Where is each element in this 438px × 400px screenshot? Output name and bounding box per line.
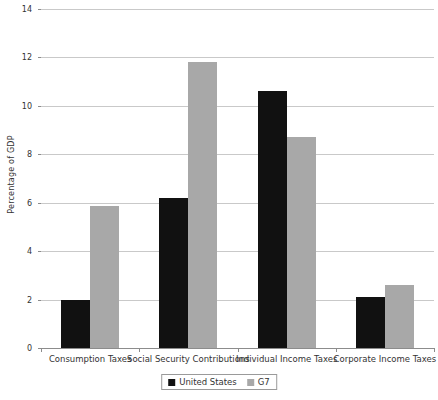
bar-united-states-corporate-income-taxes	[356, 297, 385, 348]
bars-layer	[41, 9, 434, 348]
y-tick-mark-4	[38, 251, 41, 252]
bar-g7-corporate-income-taxes	[385, 285, 414, 348]
legend-label-g7: G7	[258, 377, 270, 387]
y-tick-label-8: 8	[10, 150, 32, 159]
x-axis-label-consumption-taxes: Consumption Taxes	[49, 354, 131, 364]
bar-chart: Percentage of GDP 02468101214 Consumptio…	[0, 0, 438, 400]
bar-united-states-individual-income-taxes	[258, 91, 287, 348]
bar-g7-social-security-contributions	[188, 62, 217, 348]
y-tick-label-10: 10	[10, 101, 32, 110]
y-tick-label-2: 2	[10, 295, 32, 304]
x-axis-label-corporate-income-taxes: Corporate Income Taxes	[334, 354, 437, 364]
x-axis-label-social-security-contributions: Social Security Contributions	[127, 354, 250, 364]
y-tick-mark-10	[38, 106, 41, 107]
y-tick-label-14: 14	[10, 5, 32, 14]
black-square-swatch-icon	[168, 379, 175, 386]
y-tick-label-12: 12	[10, 53, 32, 62]
y-tick-mark-2	[38, 300, 41, 301]
legend-label-united-states: United States	[179, 377, 237, 387]
y-tick-mark-14	[38, 9, 41, 10]
legend-item-g7: G7	[247, 377, 270, 387]
bar-g7-individual-income-taxes	[287, 137, 316, 348]
y-tick-mark-8	[38, 154, 41, 155]
x-tick-2	[238, 348, 239, 352]
x-tick-edge-right	[434, 348, 435, 352]
y-tick-mark-6	[38, 203, 41, 204]
y-tick-label-4: 4	[10, 247, 32, 256]
bar-united-states-social-security-contributions	[159, 198, 188, 348]
x-tick-1	[139, 348, 140, 352]
legend-item-united-states: United States	[168, 377, 237, 387]
y-tick-label-6: 6	[10, 198, 32, 207]
chart-legend: United States G7	[161, 374, 277, 390]
x-tick-3	[336, 348, 337, 352]
plot-area	[41, 9, 434, 348]
y-tick-mark-12	[38, 57, 41, 58]
bar-united-states-consumption-taxes	[61, 300, 90, 348]
x-tick-edge-left	[41, 348, 42, 352]
bar-g7-consumption-taxes	[90, 206, 119, 348]
x-axis-label-individual-income-taxes: Individual Income Taxes	[236, 354, 338, 364]
y-tick-label-0: 0	[10, 344, 32, 353]
gray-square-swatch-icon	[247, 379, 254, 386]
